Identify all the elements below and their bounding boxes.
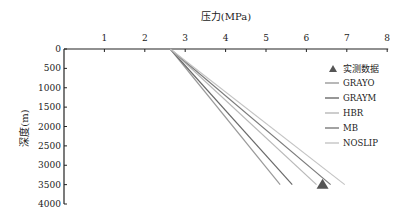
series-line-noslip: [170, 49, 345, 185]
series-line-grayo: [170, 49, 280, 185]
legend-label: GRAYM: [343, 93, 377, 103]
x-axis-title: 压力(MPa): [201, 10, 251, 22]
series-line-graym: [170, 49, 292, 185]
legend-label: NOSLIP: [343, 138, 378, 148]
legend-label: GRAYO: [343, 78, 375, 88]
y-tick-label: 1500: [38, 102, 61, 112]
x-tick-label: 2: [142, 33, 148, 43]
y-tick-label: 3500: [38, 180, 61, 190]
legend-label: MB: [343, 123, 358, 133]
x-tick-label: 1: [102, 33, 108, 43]
legend-label-measured: 实测数据: [343, 63, 379, 74]
x-tick-label: 4: [223, 33, 229, 43]
x-tick-label: 7: [344, 33, 350, 43]
series-line-mb: [170, 49, 330, 185]
x-tick-label: 8: [384, 33, 390, 43]
y-tick-label: 0: [55, 44, 61, 54]
y-tick-label: 2500: [38, 141, 61, 151]
chart: 压力(MPa)123456780500100015002000250030003…: [0, 0, 410, 223]
x-tick-label: 3: [182, 33, 188, 43]
x-tick-label: 6: [304, 33, 310, 43]
legend-triangle-icon: [329, 65, 337, 72]
series-line-hbr: [170, 49, 316, 185]
y-tick-label: 3000: [38, 160, 61, 170]
legend-label: HBR: [343, 108, 364, 118]
y-axis-title: 深度(m): [18, 109, 30, 146]
measured-triangle-marker: [317, 179, 329, 189]
y-tick-label: 1000: [38, 83, 61, 93]
y-tick-label: 2000: [38, 122, 61, 132]
y-tick-label: 4000: [38, 199, 61, 209]
y-tick-label: 500: [44, 63, 61, 73]
x-tick-label: 5: [263, 33, 269, 43]
